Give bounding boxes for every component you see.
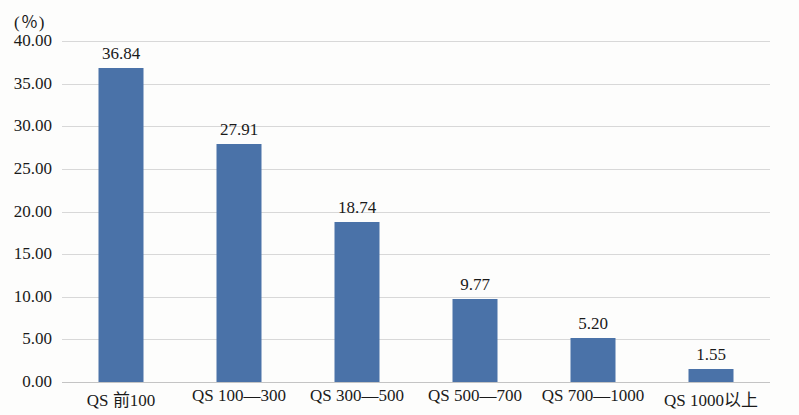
x-axis-tick-label: QS 前100 <box>62 386 180 411</box>
y-axis-tick-label: 0.00 <box>0 372 58 392</box>
y-axis-tick-label: 15.00 <box>0 244 58 264</box>
x-axis-tick-label: QS 1000以上 <box>652 386 770 411</box>
y-axis-tick-label: 20.00 <box>0 202 58 222</box>
plot-area: 36.8427.9118.749.775.201.55 <box>62 41 770 382</box>
bar[interactable] <box>689 369 734 382</box>
bar[interactable] <box>453 299 498 382</box>
bar-group: 27.91 <box>180 41 298 382</box>
bar-group: 1.55 <box>652 41 770 382</box>
bar-group: 5.20 <box>534 41 652 382</box>
y-axis-tick-label: 30.00 <box>0 116 58 136</box>
y-axis-tick-label: 35.00 <box>0 74 58 94</box>
bar-value-label: 5.20 <box>578 314 608 334</box>
bar[interactable] <box>571 338 616 382</box>
y-axis-unit-label: (％) <box>14 8 45 33</box>
x-axis-tick-label: QS 500—700 <box>416 386 534 406</box>
bar[interactable] <box>335 222 380 382</box>
bar[interactable] <box>217 144 262 382</box>
y-axis-tick-label: 25.00 <box>0 159 58 179</box>
bar-group: 36.84 <box>62 41 180 382</box>
gridline <box>62 382 770 383</box>
bar[interactable] <box>99 68 144 382</box>
bar-chart: (％) 40.0035.0030.0025.0020.0015.0010.005… <box>0 0 799 415</box>
x-axis-tick-label: QS 700—1000 <box>534 386 652 406</box>
y-axis-tick-label: 40.00 <box>0 31 58 51</box>
bar-value-label: 1.55 <box>696 345 726 365</box>
bar-group: 18.74 <box>298 41 416 382</box>
bar-value-label: 27.91 <box>220 120 258 140</box>
bar-group: 9.77 <box>416 41 534 382</box>
bar-value-label: 18.74 <box>338 198 376 218</box>
x-axis-tick-label: QS 100—300 <box>180 386 298 406</box>
y-axis-tick-label: 10.00 <box>0 287 58 307</box>
bar-value-label: 36.84 <box>102 44 140 64</box>
bar-value-label: 9.77 <box>460 275 490 295</box>
y-axis-tick-label: 5.00 <box>0 329 58 349</box>
x-axis-category-labels: QS 前100QS 100—300QS 300—500QS 500—700QS … <box>62 386 770 415</box>
x-axis-tick-label: QS 300—500 <box>298 386 416 406</box>
